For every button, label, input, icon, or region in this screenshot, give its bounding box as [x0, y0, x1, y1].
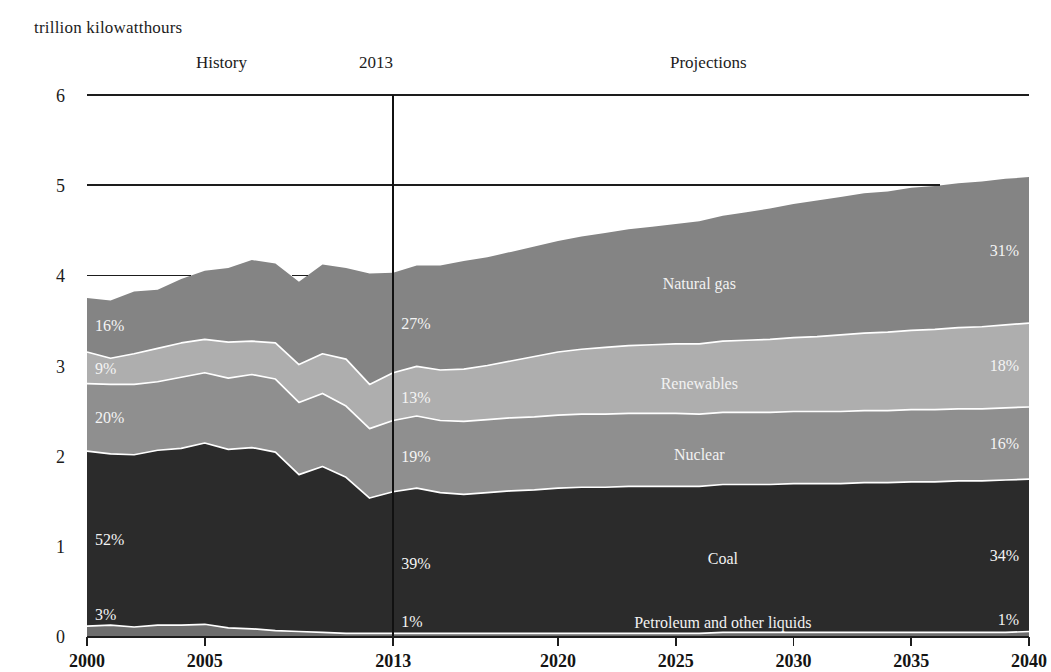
area-bands-group: [87, 177, 1029, 636]
pct-label-petroleum-and-other-liquids-2000: 3%: [95, 606, 116, 623]
pct-label-coal-2013: 39%: [401, 555, 430, 572]
x-tick-label-2013: 2013: [375, 651, 411, 671]
pct-label-renewables-2000: 9%: [95, 360, 116, 377]
y-tick-label-2: 2: [56, 447, 65, 467]
pct-label-natural-gas-2040: 31%: [990, 242, 1019, 259]
y-tick-label-1: 1: [56, 537, 65, 557]
pct-label-coal-2040: 34%: [990, 547, 1019, 564]
pct-label-renewables-2013: 13%: [401, 389, 430, 406]
y-tick-label-3: 3: [56, 357, 65, 377]
pct-label-coal-2000: 52%: [95, 531, 124, 548]
pct-label-petroleum-and-other-liquids-2013: 1%: [401, 613, 422, 630]
y-tick-labels-group: 0123456: [56, 86, 65, 647]
series-label-nuclear: Nuclear: [674, 446, 725, 463]
x-tick-labels-group: 20002005201320202025203020352040: [69, 651, 1047, 671]
pct-label-renewables-2040: 18%: [990, 357, 1019, 374]
series-label-renewables: Renewables: [661, 375, 738, 392]
x-tick-label-2040: 2040: [1011, 651, 1047, 671]
y-tick-label-5: 5: [56, 176, 65, 196]
x-tick-label-2020: 2020: [540, 651, 576, 671]
pct-label-nuclear-2013: 19%: [401, 448, 430, 465]
stacked-area-plot: 0123456 20002005201320202025203020352040…: [0, 0, 1051, 672]
chart-root: trillion kilowatthours History 2013 Proj…: [0, 0, 1051, 672]
x-tick-label-2025: 2025: [658, 651, 694, 671]
x-tick-label-2000: 2000: [69, 651, 105, 671]
pct-label-petroleum-and-other-liquids-2040: 1%: [998, 611, 1019, 628]
axis-group: [87, 637, 1029, 646]
series-label-coal: Coal: [708, 550, 739, 567]
pct-label-natural-gas-2013: 27%: [401, 315, 430, 332]
series-label-petroleum-and-other-liquids: Petroleum and other liquids: [634, 614, 811, 632]
pct-label-nuclear-2000: 20%: [95, 409, 124, 426]
x-tick-label-2035: 2035: [893, 651, 929, 671]
x-tick-label-2030: 2030: [776, 651, 812, 671]
pct-label-nuclear-2040: 16%: [990, 435, 1019, 452]
pct-label-natural-gas-2000: 16%: [95, 317, 124, 334]
y-tick-label-4: 4: [56, 266, 65, 286]
y-tick-label-0: 0: [56, 627, 65, 647]
x-tick-label-2005: 2005: [187, 651, 223, 671]
y-tick-label-6: 6: [56, 86, 65, 106]
series-label-natural-gas: Natural gas: [663, 275, 736, 293]
